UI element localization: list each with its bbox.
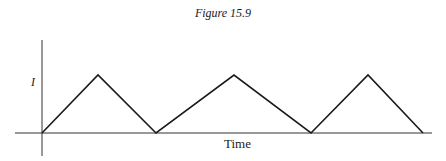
y-axis-label: I [31, 75, 35, 90]
triangle-wave-plot [0, 0, 446, 161]
triangle-wave-line [42, 75, 423, 133]
x-axis-label: Time [224, 136, 251, 152]
